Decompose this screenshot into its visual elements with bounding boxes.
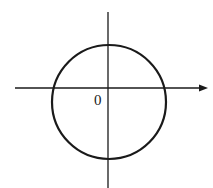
diagram-canvas [0,0,213,188]
origin-label: 0 [94,93,102,108]
coordinate-diagram: 0 [0,0,213,188]
x-axis-arrowhead-icon [199,85,208,92]
circle [52,45,166,159]
